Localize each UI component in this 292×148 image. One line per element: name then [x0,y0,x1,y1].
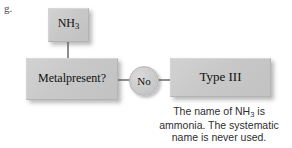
nh3-formula-subscript: 3 [75,22,79,32]
caption-line-1-suffix: is [254,105,265,117]
caption-line-1-prefix: The name of NH [173,105,250,117]
caption-line-1: The name of NH3 is [148,106,290,120]
item-letter-label: g. [4,2,12,14]
metal-present-line1: Metal [38,71,66,85]
flow-answer-bubble-no: No [129,66,159,96]
flow-node-type-iii: Type III [170,58,271,97]
connector-nh3-to-metal [67,41,69,59]
flow-node-type-iii-label: Type III [171,70,270,85]
flowchart-figure: g. NH3 Metalpresent? No Type III The nam… [0,0,292,148]
flow-answer-bubble-no-label: No [137,75,150,87]
figure-caption: The name of NH3 is ammonia. The systemat… [148,106,290,143]
flow-node-nh3-label: NH3 [49,17,88,32]
flow-node-metal-present: Metalpresent? [26,58,118,100]
flow-node-metal-present-label: Metalpresent? [27,72,117,86]
nh3-formula-main: NH [58,16,75,30]
caption-line-3: name is never used. [148,132,290,144]
flow-node-nh3: NH3 [48,8,89,42]
metal-present-line2: present? [66,71,106,85]
